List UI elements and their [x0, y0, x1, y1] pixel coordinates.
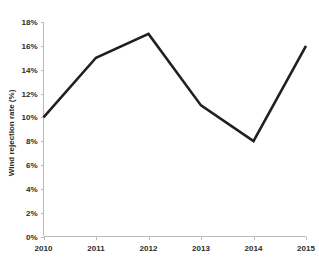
y-axis-tick-label: 8%: [26, 137, 38, 146]
chart-canvas: Wind rejection rate (%) 0%2%4%6%8%10%12%…: [0, 0, 319, 262]
y-axis-tick-label: 14%: [21, 66, 37, 75]
x-axis-tick-label: 2011: [87, 244, 105, 253]
y-axis-title: Wind rejection rate (%): [7, 89, 16, 176]
x-axis-tick-labels: 201020112012201320142015: [35, 244, 316, 253]
y-axis-tick-label: 6%: [26, 161, 38, 170]
x-axis-tick-label: 2014: [245, 244, 263, 253]
y-axis-tick-label: 4%: [26, 185, 38, 194]
x-axis-tick-label: 2012: [140, 244, 158, 253]
x-axis-tick-label: 2010: [35, 244, 53, 253]
y-axis-tick-label: 12%: [21, 90, 37, 99]
x-axis-tick-label: 2015: [297, 244, 315, 253]
y-axis-title-text: Wind rejection rate (%): [7, 89, 16, 176]
y-axis-tick-label: 2%: [26, 209, 38, 218]
y-axis-tick-label: 16%: [21, 42, 37, 51]
y-axis-tick-label: 10%: [21, 113, 37, 122]
x-axis-tick-label: 2013: [192, 244, 210, 253]
wind-rejection-rate-line-chart: Wind rejection rate (%) 0%2%4%6%8%10%12%…: [0, 0, 319, 262]
y-axis-tick-labels: 0%2%4%6%8%10%12%14%16%18%: [21, 18, 37, 242]
data-series-line: [44, 34, 307, 141]
y-axis-tick-label: 0%: [26, 233, 38, 242]
y-axis-tick-label: 18%: [21, 18, 37, 27]
